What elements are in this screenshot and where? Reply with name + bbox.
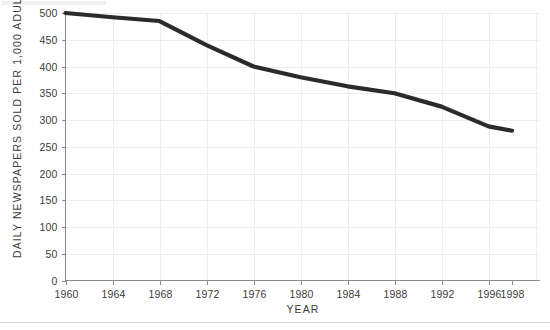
y-tick-label: 100 bbox=[39, 221, 57, 233]
x-tick-label: 1992 bbox=[430, 288, 454, 300]
y-tick-label: 300 bbox=[39, 114, 57, 126]
x-tick-label: 1964 bbox=[101, 288, 125, 300]
y-tick-label: 250 bbox=[39, 141, 57, 153]
y-tick-label: 450 bbox=[39, 34, 57, 46]
x-tick-label: 1980 bbox=[289, 288, 313, 300]
chart-container: 050100150200250300350400450500 196019641… bbox=[0, 0, 550, 330]
x-tick-label: 1976 bbox=[242, 288, 266, 300]
y-tick-label: 50 bbox=[45, 248, 57, 260]
x-tick-label: 1984 bbox=[336, 288, 360, 300]
y-tick-label: 350 bbox=[39, 87, 57, 99]
x-tick-label: 1960 bbox=[54, 288, 78, 300]
y-tick-label: 150 bbox=[39, 194, 57, 206]
y-tick-label: 0 bbox=[51, 275, 57, 287]
x-tick-label: 1988 bbox=[383, 288, 407, 300]
x-tick-label: 1996 bbox=[477, 288, 501, 300]
x-tick-label: 1998 bbox=[500, 288, 524, 300]
y-tick-label: 400 bbox=[39, 61, 57, 73]
y-tick-label: 200 bbox=[39, 168, 57, 180]
y-tick-label: 500 bbox=[39, 7, 57, 19]
x-axis-title: YEAR bbox=[287, 303, 320, 315]
line-chart: 050100150200250300350400450500 196019641… bbox=[0, 0, 550, 330]
x-tick-label: 1968 bbox=[148, 288, 172, 300]
y-axis-title: DAILY NEWSPAPERS SOLD PER 1,000 ADULTS bbox=[11, 0, 23, 258]
x-tick-label: 1972 bbox=[195, 288, 219, 300]
